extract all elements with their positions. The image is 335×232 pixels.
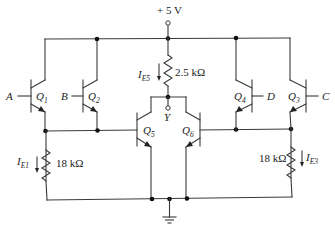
transistor-q1: A Q1 [5,80,48,131]
ground-icon [163,199,176,223]
ie3-label: IE3 [305,151,318,166]
supply-label: + 5 V [157,4,182,16]
transistor-q3: C Q3 [288,80,330,129]
transistor-q4: D Q4 [234,80,275,130]
q1-label: Q1 [36,90,48,105]
current-arrow-icon [35,157,39,173]
transistor-q5: Q5 [137,112,155,200]
q4-label: Q4 [234,90,246,105]
input-c-label: C [322,90,330,102]
resistor-re5: 2.5 kΩ IE5 [137,38,205,97]
resistor-re1: 18 kΩ IE1 [16,131,83,200]
input-d-label: D [266,90,275,102]
q2-label: Q2 [88,90,100,105]
q5-label: Q5 [143,124,155,139]
current-arrow-icon [300,151,304,167]
input-a-label: A [5,90,13,102]
resistor-re3: 18 kΩ IE3 [259,129,318,197]
left-emitter-node [43,128,137,133]
collector-node: Y [151,95,186,123]
re1-value: 18 kΩ [56,157,83,169]
ie5-label: IE5 [137,68,150,83]
right-emitter-node [200,127,293,132]
transistor-q6: Q6 [182,112,200,200]
q3-label: Q3 [288,90,300,105]
input-b-label: B [61,90,68,102]
ie1-label: IE1 [16,155,29,170]
current-arrow-icon [157,64,161,81]
transistor-q2: B Q2 [61,80,100,131]
output-y-label: Y [164,111,172,123]
re3-value: 18 kΩ [259,152,286,164]
re5-value: 2.5 kΩ [175,66,205,78]
circuit-schematic: + 5 V 2.5 kΩ IE5 Y [0,0,335,232]
supply-terminal: + 5 V [157,4,182,38]
q6-label: Q6 [182,124,194,139]
